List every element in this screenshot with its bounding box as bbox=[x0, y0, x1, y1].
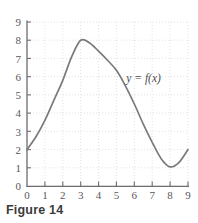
curve-equation-label: y = f(x) bbox=[125, 72, 161, 85]
y-tick-label-7: 7 bbox=[16, 53, 22, 65]
y-tick-label-1: 1 bbox=[16, 162, 22, 174]
x-tick-label-7: 7 bbox=[149, 189, 155, 201]
x-axis-tick-labels: 0 1 2 3 4 5 6 7 8 9 bbox=[24, 189, 191, 201]
y-tick-label-5: 5 bbox=[16, 89, 22, 101]
x-tick-label-8: 8 bbox=[167, 189, 173, 201]
x-tick-label-4: 4 bbox=[96, 189, 102, 201]
figure-14-container: . . . bbox=[0, 0, 198, 223]
y-tick-label-8: 8 bbox=[16, 34, 22, 46]
y-tick-label-9: 9 bbox=[16, 16, 22, 28]
figure-caption: Figure 14 bbox=[6, 203, 63, 217]
x-tick-label-5: 5 bbox=[114, 189, 120, 201]
y-tick-label-3: 3 bbox=[16, 126, 22, 138]
x-tick-label-9: 9 bbox=[185, 189, 191, 201]
y-tick-label-6: 6 bbox=[16, 71, 22, 83]
x-tick-label-0: 0 bbox=[24, 189, 30, 201]
y-axis-tick-labels: 0 1 2 3 4 5 6 7 8 9 bbox=[16, 16, 22, 192]
x-tick-label-3: 3 bbox=[78, 189, 84, 201]
y-tick-label-4: 4 bbox=[16, 107, 22, 119]
x-tick-label-6: 6 bbox=[132, 189, 138, 201]
x-tick-label-2: 2 bbox=[60, 189, 66, 201]
y-tick-label-0: 0 bbox=[16, 180, 22, 192]
function-graph: 0 1 2 3 4 5 6 7 8 9 0 1 2 3 4 5 6 7 8 9 … bbox=[0, 0, 198, 200]
y-tick-label-2: 2 bbox=[16, 144, 22, 156]
x-tick-label-1: 1 bbox=[42, 189, 48, 201]
